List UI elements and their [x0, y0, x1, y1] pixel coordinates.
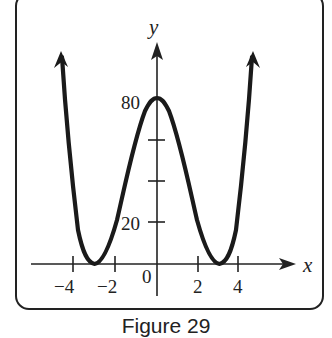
origin-label: 0	[142, 266, 152, 287]
x-tick-label-neg4: −4	[54, 276, 75, 297]
figure-caption: Figure 29	[0, 314, 332, 338]
y-axis-label: y	[147, 15, 159, 39]
x-tick-label-2: 2	[193, 276, 203, 297]
x-axis-label: x	[302, 253, 313, 277]
x-tick-label-4: 4	[233, 276, 243, 297]
y-tick-label-80: 80	[121, 92, 140, 113]
y-tick-label-20: 20	[121, 213, 140, 234]
x-tick-label-neg2: −2	[97, 276, 117, 297]
